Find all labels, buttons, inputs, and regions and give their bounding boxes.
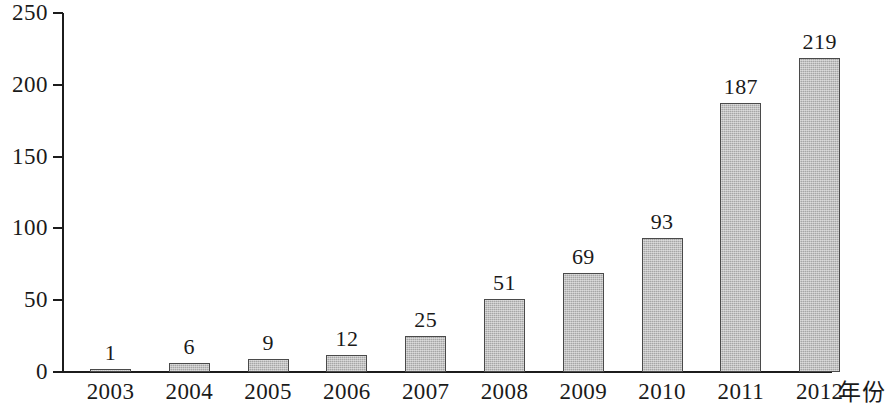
bar-value-label: 93 [627, 211, 697, 233]
bar [642, 238, 683, 372]
bar [169, 363, 210, 372]
y-axis-tick-label: 0 [0, 360, 48, 383]
bar [563, 273, 604, 372]
y-axis-tick-label: 50 [0, 288, 48, 311]
x-axis-title: 年份 [838, 379, 885, 405]
y-axis-tick [53, 371, 63, 373]
bar [799, 58, 840, 372]
y-axis-tick-label: 250 [0, 1, 48, 24]
y-axis-tick-label: 150 [0, 145, 48, 168]
bar [484, 299, 525, 372]
bar-value-label: 9 [233, 332, 303, 354]
bar-value-label: 12 [312, 328, 382, 350]
y-axis-tick [53, 299, 63, 301]
bar-value-label: 187 [706, 76, 776, 98]
x-axis-tick-label: 2008 [465, 379, 545, 405]
y-axis-tick [53, 12, 63, 14]
bar [405, 336, 446, 372]
x-axis-tick-label: 2007 [386, 379, 466, 405]
x-axis-tick-label: 2010 [622, 379, 702, 405]
x-axis-tick-label: 2005 [228, 379, 308, 405]
y-axis-line [62, 13, 64, 373]
y-axis-tick-label: 100 [0, 216, 48, 239]
bar-chart: 050100150200250 1691225516993187219 2003… [0, 0, 887, 409]
bar-value-label: 219 [785, 31, 855, 53]
bar-value-label: 1 [76, 342, 146, 364]
x-axis-tick-label: 2004 [149, 379, 229, 405]
x-axis-tick-label: 2006 [307, 379, 387, 405]
bar-value-label: 51 [470, 272, 540, 294]
y-axis-tick [53, 156, 63, 158]
x-axis-tick-label: 2003 [71, 379, 151, 405]
y-axis-tick-label: 200 [0, 73, 48, 96]
bar-value-label: 25 [391, 309, 461, 331]
bar-value-label: 69 [548, 246, 618, 268]
bar-value-label: 6 [154, 336, 224, 358]
y-axis-tick [53, 84, 63, 86]
bar [720, 103, 761, 372]
y-axis-tick [53, 227, 63, 229]
bar [90, 369, 131, 372]
x-axis-tick-label: 2011 [701, 379, 781, 405]
bar [326, 355, 367, 372]
bar [248, 359, 289, 372]
x-axis-tick-label: 2009 [543, 379, 623, 405]
